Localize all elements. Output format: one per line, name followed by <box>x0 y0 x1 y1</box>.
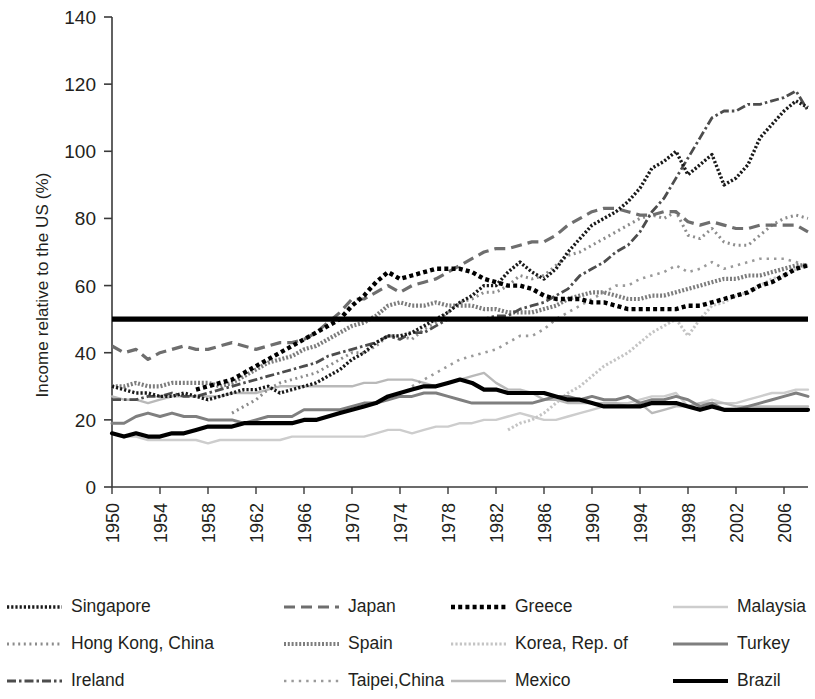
legend-item[interactable]: Singapore <box>6 588 151 625</box>
line-chart-svg: 0204060801001201401950195419581962196619… <box>0 0 815 585</box>
legend-label: Ireland <box>71 672 125 690</box>
series-line-spain <box>112 265 808 386</box>
legend-swatch-taipei-china <box>283 673 339 689</box>
y-tick-label: 40 <box>75 343 96 364</box>
chart-page: Income relative to the US (%) 0204060801… <box>0 0 815 699</box>
legend-swatch-singapore <box>6 599 62 615</box>
series-line-japan <box>112 208 808 359</box>
legend-label: Turkey <box>737 635 790 653</box>
legend-label: Mexico <box>515 672 570 690</box>
y-tick-label: 0 <box>85 477 96 498</box>
legend-label: Brazil <box>737 672 781 690</box>
y-tick-label: 140 <box>64 7 96 28</box>
x-tick-label: 1954 <box>151 503 171 543</box>
x-tick-label: 1950 <box>103 503 123 543</box>
legend-swatch-turkey <box>672 636 728 652</box>
legend-row: Hong Kong, ChinaSpainKorea, Rep. ofTurke… <box>0 625 815 662</box>
legend-label: Hong Kong, China <box>71 635 214 653</box>
legend-swatch-ireland <box>6 673 62 689</box>
plot-area: 0204060801001201401950195419581962196619… <box>0 0 815 585</box>
legend-swatch-greece <box>450 599 506 615</box>
legend-item[interactable]: Brazil <box>672 662 781 699</box>
legend-item[interactable]: Spain <box>283 625 393 662</box>
legend-swatch-mexico <box>450 673 506 689</box>
x-tick-label: 1974 <box>391 503 411 543</box>
legend-item[interactable]: Malaysia <box>672 588 806 625</box>
y-tick-label: 80 <box>75 208 96 229</box>
legend-label: Singapore <box>71 598 151 616</box>
legend-row: SingaporeJapanGreeceMalaysia <box>0 588 815 625</box>
legend-label: Greece <box>515 598 572 616</box>
x-tick-label: 2006 <box>775 503 795 543</box>
x-tick-label: 1994 <box>631 503 651 543</box>
legend-item[interactable]: Turkey <box>672 625 790 662</box>
legend-label: Spain <box>348 635 393 653</box>
legend-swatch-hong-kong-china <box>6 636 62 652</box>
legend-swatch-brazil <box>672 673 728 689</box>
x-tick-label: 2002 <box>727 503 747 543</box>
x-tick-label: 1986 <box>535 503 555 543</box>
series-line-brazil <box>112 380 808 437</box>
legend-item[interactable]: Ireland <box>6 662 125 699</box>
x-tick-label: 1990 <box>583 503 603 543</box>
legend-item[interactable]: Taipei,China <box>283 662 444 699</box>
legend-item[interactable]: Greece <box>450 588 572 625</box>
series-line-hong-kong-china <box>232 212 808 413</box>
legend-label: Taipei,China <box>348 672 444 690</box>
series-line-singapore <box>112 101 808 400</box>
legend-item[interactable]: Hong Kong, China <box>6 625 214 662</box>
y-tick-label: 100 <box>64 141 96 162</box>
series-line-ireland <box>112 91 808 400</box>
legend-row: IrelandTaipei,ChinaMexicoBrazil <box>0 662 815 699</box>
legend-item[interactable]: Japan <box>283 588 396 625</box>
series-line-taipei-china <box>412 259 808 387</box>
chart-legend: SingaporeJapanGreeceMalaysiaHong Kong, C… <box>0 588 815 699</box>
x-tick-label: 1958 <box>199 503 219 543</box>
x-tick-label: 1966 <box>295 503 315 543</box>
x-tick-label: 1978 <box>439 503 459 543</box>
x-tick-label: 1962 <box>247 503 267 543</box>
x-tick-label: 1982 <box>487 503 507 543</box>
series-line-malaysia <box>112 390 808 444</box>
legend-swatch-spain <box>283 636 339 652</box>
chart-container: Income relative to the US (%) 0204060801… <box>0 0 815 585</box>
legend-item[interactable]: Korea, Rep. of <box>450 625 628 662</box>
x-tick-label: 1970 <box>343 503 363 543</box>
y-tick-label: 60 <box>75 276 96 297</box>
y-tick-label: 120 <box>64 74 96 95</box>
legend-label: Japan <box>348 598 396 616</box>
legend-label: Malaysia <box>737 598 806 616</box>
y-tick-label: 20 <box>75 410 96 431</box>
legend-swatch-malaysia <box>672 599 728 615</box>
legend-label: Korea, Rep. of <box>515 635 628 653</box>
legend-swatch-korea-rep-of <box>450 636 506 652</box>
legend-item[interactable]: Mexico <box>450 662 570 699</box>
x-tick-label: 1998 <box>679 503 699 543</box>
legend-swatch-japan <box>283 599 339 615</box>
